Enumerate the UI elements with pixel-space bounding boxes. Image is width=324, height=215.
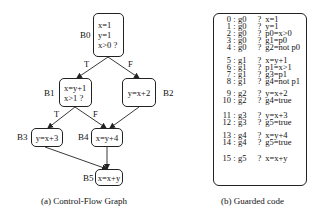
node-line: x>0 ? xyxy=(98,40,119,50)
caption-guarded-code: (b) Guarded code xyxy=(221,196,284,206)
code-line: 14:g4? g5=true xyxy=(217,139,292,146)
edge-b0-b1 xyxy=(77,57,108,78)
node-line: y=1 xyxy=(98,30,119,40)
code-line: 15:g5? x=x+y xyxy=(217,155,287,162)
code-line: 12:g3? g5=true xyxy=(217,119,292,126)
block-label-b4: B4 xyxy=(78,132,89,142)
block-label-b5: B5 xyxy=(83,173,94,183)
edge-b0-b2 xyxy=(108,57,139,78)
node-line: x=1 xyxy=(98,20,119,30)
edge-label-b0-b2: F xyxy=(128,60,133,69)
node-line: x=y+1 xyxy=(64,83,87,93)
edge-label-b1-b4: F xyxy=(93,110,98,119)
edge-b1-b3 xyxy=(48,107,75,128)
cfg-node-b4: x=y+4 xyxy=(91,128,123,147)
code-line: 4:g0? g2=not p0 xyxy=(217,44,300,51)
block-label-b1: B1 xyxy=(44,88,55,98)
code-line: 10:g2? g4=true xyxy=(217,97,292,104)
edge-b2-b4 xyxy=(110,107,139,128)
node-line: y=x+3 xyxy=(36,133,58,143)
edge-b3-b5 xyxy=(45,147,107,169)
cfg-node-b0: x=1 y=1 x>0 ? xyxy=(93,13,124,57)
block-label-b2: B2 xyxy=(163,88,174,98)
node-line: x=y+4 xyxy=(96,133,118,143)
block-label-b0: B0 xyxy=(80,30,91,40)
edge-label-b1-b3: T xyxy=(54,110,59,119)
cfg-node-b3: y=x+3 xyxy=(31,128,63,147)
node-line: y=x+2 xyxy=(128,88,150,98)
node-line: x=x+y xyxy=(98,173,120,183)
figure: T F T F B0 x=1 y=1 x>0 ? B1 x=y+1 x>1 ? … xyxy=(0,0,324,215)
block-label-b3: B3 xyxy=(17,132,28,142)
code-line: 8:g1? g4=not p1 xyxy=(217,78,300,85)
caption-cfg: (a) Control-Flow Graph xyxy=(41,196,127,206)
edge-b1-b4 xyxy=(75,107,106,128)
node-line: x>1 ? xyxy=(64,93,87,103)
edge-label-b0-b1: T xyxy=(84,60,89,69)
cfg-node-b1: x=y+1 x>1 ? xyxy=(59,78,92,107)
cfg-node-b2: y=x+2 xyxy=(122,78,156,107)
cfg-node-b5: x=x+y xyxy=(95,169,123,186)
